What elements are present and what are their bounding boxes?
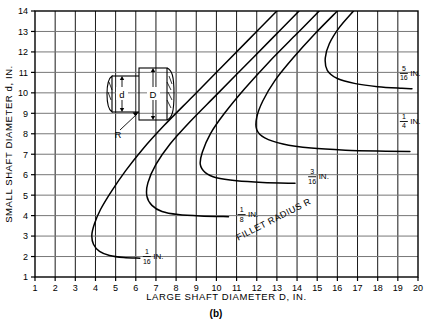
fillet-radius-chart: 1234567891011121314151617181920 12345678…	[0, 0, 433, 321]
fraction-numerator: 3	[310, 168, 314, 175]
y-axis-label: SMALL SHAFT DIAMETER d, IN.	[3, 65, 14, 223]
fraction-denominator: 4	[402, 122, 406, 129]
x-tick-label: 4	[93, 283, 98, 293]
figure-caption: (b)	[210, 308, 223, 319]
y-tick-label: 7	[23, 150, 28, 160]
fraction-denominator: 16	[308, 178, 316, 185]
x-tick-label: 20	[413, 283, 423, 293]
fraction-numerator: 1	[240, 206, 244, 213]
y-tick-label: 9	[23, 109, 28, 119]
y-tick-label: 14	[18, 6, 28, 16]
fraction-denominator: 8	[240, 216, 244, 223]
x-tick-label: 3	[73, 283, 78, 293]
y-tick-label: 1	[23, 272, 28, 282]
x-tick-label: 2	[53, 283, 58, 293]
unit-label: IN.	[410, 117, 420, 126]
fraction-denominator: 16	[400, 74, 408, 81]
fraction-numerator: 5	[402, 65, 406, 72]
x-axis-label: LARGE SHAFT DIAMETER D, IN.	[146, 291, 307, 302]
fraction-numerator: 1	[402, 113, 406, 120]
x-tick-label: 16	[332, 283, 342, 293]
unit-label: IN.	[248, 210, 258, 219]
y-tick-label: 2	[23, 252, 28, 262]
y-tick-label: 6	[23, 170, 28, 180]
y-tick-label: 10	[18, 88, 28, 98]
unit-label: IN.	[319, 172, 329, 181]
x-tick-label: 1	[32, 283, 37, 293]
y-tick-label: 8	[23, 129, 28, 139]
y-tick-label: 3	[23, 231, 28, 241]
y-tick-label: 13	[18, 27, 28, 37]
unit-label: IN.	[410, 69, 420, 78]
x-tick-label: 15	[312, 283, 322, 293]
x-tick-label: 19	[393, 283, 403, 293]
x-tick-label: 17	[353, 283, 363, 293]
x-tick-label: 6	[133, 283, 138, 293]
y-tick-label: 11	[19, 68, 28, 78]
fraction-numerator: 1	[145, 248, 149, 255]
y-tick-label: 5	[23, 191, 28, 201]
x-tick-label: 18	[373, 283, 383, 293]
y-tick-label: 12	[18, 47, 28, 57]
x-tick-label: 5	[113, 283, 118, 293]
unit-label: IN.	[153, 252, 163, 261]
fraction-denominator: 16	[143, 258, 151, 265]
inset-small-diameter-label: d	[119, 89, 124, 100]
y-tick-label: 4	[23, 211, 28, 221]
inset-radius-label: R	[115, 129, 122, 140]
inset-large-diameter-label: D	[150, 89, 157, 100]
